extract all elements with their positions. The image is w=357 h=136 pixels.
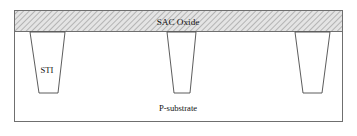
sac-oxide-label: SAC Oxide [157,17,200,27]
sti-cross-section-diagram: SAC Oxide STI P-substrate [0,0,357,136]
figure-root: SAC Oxide STI P-substrate [0,0,357,136]
sti-label: STI [41,65,54,75]
p-substrate-label: P-substrate [159,103,197,113]
